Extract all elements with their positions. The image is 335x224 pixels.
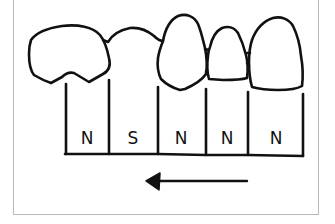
column-label-0: N	[67, 126, 107, 149]
gum-saddle-shape	[103, 28, 163, 42]
column-label-2: N	[161, 126, 201, 149]
tooth-5-crown-shape	[249, 17, 303, 90]
column-label-4: N	[256, 126, 296, 149]
tooth-3-crown-shape	[158, 15, 207, 90]
column-label-3: N	[207, 126, 247, 149]
tooth-4-crown-shape	[207, 27, 247, 80]
arrow-left-icon	[146, 173, 160, 190]
column-label-1: S	[113, 126, 153, 149]
baseline	[65, 154, 303, 156]
diagram-drawing	[0, 0, 335, 224]
dental-diagram: N S N N N	[0, 0, 335, 224]
molar-crown-shape	[29, 25, 110, 83]
